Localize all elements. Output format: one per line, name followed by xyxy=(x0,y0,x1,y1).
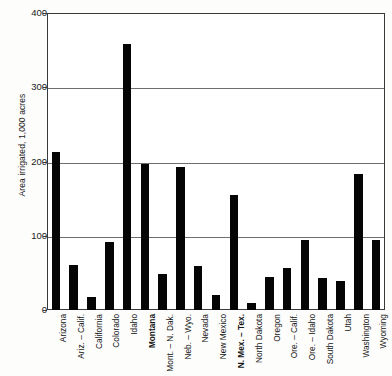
bar xyxy=(230,195,239,310)
x-axis-label: Montana xyxy=(148,314,156,348)
y-tick-label-200: 200 xyxy=(13,157,47,167)
y-tick-label-400: 400 xyxy=(13,8,47,18)
x-axis-label: Neb. – Wyo. xyxy=(184,314,192,360)
bar xyxy=(87,297,96,310)
x-axis-labels: ArizonaAriz. – Calif.CaliforniaColoradoI… xyxy=(47,310,385,376)
bar xyxy=(265,277,274,310)
bar xyxy=(354,174,363,310)
bar-chart: Area irrigated, 1,000 acres 010020030040… xyxy=(0,0,392,376)
x-axis-label: Ore. – Calif. xyxy=(290,314,298,358)
bar xyxy=(69,265,78,310)
bar xyxy=(105,242,114,310)
y-tick-label-100: 100 xyxy=(13,231,47,241)
x-axis-label: Oregon xyxy=(273,314,281,342)
x-axis-label: South Dakota xyxy=(326,314,334,364)
y-tick-label-0: 0 xyxy=(13,305,47,315)
bar xyxy=(336,281,345,310)
bar xyxy=(301,240,310,310)
y-tick-label-300: 300 xyxy=(13,82,47,92)
bar xyxy=(158,274,167,310)
x-axis-label: Washington xyxy=(362,314,370,358)
bar xyxy=(176,167,185,310)
bars-layer xyxy=(47,13,385,310)
bar xyxy=(141,164,150,310)
y-axis-ticks: 0100200300400 xyxy=(0,0,47,376)
x-axis-label: New Mexico xyxy=(219,314,227,359)
x-axis-label: Colorado xyxy=(112,314,120,348)
bar xyxy=(318,278,327,310)
x-axis-label: N. Mex. – Tex. xyxy=(237,314,245,368)
bar xyxy=(52,152,61,310)
x-axis-label: Idaho xyxy=(130,314,138,335)
x-axis-label: Wyoming xyxy=(379,314,387,349)
bar xyxy=(247,303,256,310)
x-axis-label: Arizona xyxy=(59,314,67,342)
bar xyxy=(212,295,221,310)
bar xyxy=(283,268,292,310)
x-axis-label: Ariz. – Calif. xyxy=(77,314,85,359)
bar xyxy=(123,44,132,310)
x-axis-label: California xyxy=(95,314,103,349)
x-axis-label: Utah xyxy=(344,314,352,332)
bar xyxy=(372,240,381,310)
x-axis-label: Nevada xyxy=(201,314,209,343)
bar xyxy=(194,266,203,310)
x-axis-label: Mont. – N. Dak. xyxy=(166,314,174,372)
x-axis-label: Ore. – Idaho xyxy=(308,314,316,360)
x-axis-label: North Dakota xyxy=(255,314,263,363)
